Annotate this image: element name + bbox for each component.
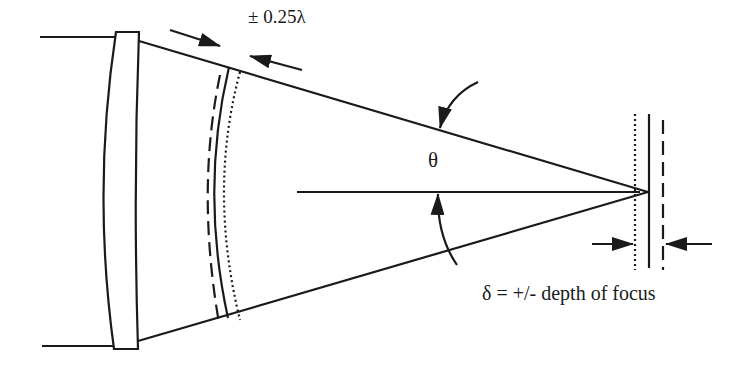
tolerance-arrow-in-left xyxy=(170,30,220,46)
depth-of-focus-label: δ = +/- depth of focus xyxy=(482,282,656,305)
wavefront-solid xyxy=(214,67,229,318)
tolerance-arrow-in-right xyxy=(250,56,302,70)
lens xyxy=(103,32,139,349)
cone-angle-label: θ xyxy=(428,148,438,173)
angle-arrow-upper xyxy=(440,82,478,128)
depth-of-focus-diagram: ± 0.25λ θ δ = +/- depth of focus xyxy=(0,0,748,366)
angle-arrow-lower xyxy=(438,194,457,265)
diagram-drawing xyxy=(0,0,748,366)
wavefront-dotted xyxy=(224,72,240,320)
wavefront-tolerance-label: ± 0.25λ xyxy=(248,6,306,28)
